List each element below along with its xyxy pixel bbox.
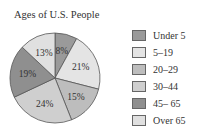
slice-label: 19% [19, 69, 37, 79]
legend-item: 5–19 [132, 44, 186, 61]
legend: Under 55–1920–2930–4445– 65Over 65 [132, 27, 186, 129]
legend-swatch [132, 30, 146, 41]
legend-item: 20–29 [132, 61, 186, 78]
legend-item: 30–44 [132, 78, 186, 95]
legend-swatch [132, 115, 146, 126]
legend-label: 20–29 [153, 64, 178, 75]
legend-swatch [132, 81, 146, 92]
slice-label: 21% [72, 62, 90, 72]
slice-label: 13% [35, 48, 53, 58]
legend-label: Over 65 [153, 115, 186, 126]
legend-swatch [132, 98, 146, 109]
legend-label: 45– 65 [153, 98, 181, 109]
legend-item: 45– 65 [132, 95, 186, 112]
legend-swatch [132, 64, 146, 75]
legend-swatch [132, 47, 146, 58]
slice-label: 8% [56, 46, 69, 56]
legend-label: 30–44 [153, 81, 178, 92]
legend-item: Under 5 [132, 27, 186, 44]
slice-label: 24% [36, 99, 54, 109]
slice-label: 15% [67, 92, 85, 102]
legend-label: Under 5 [153, 30, 186, 41]
legend-item: Over 65 [132, 112, 186, 129]
legend-label: 5–19 [153, 47, 173, 58]
